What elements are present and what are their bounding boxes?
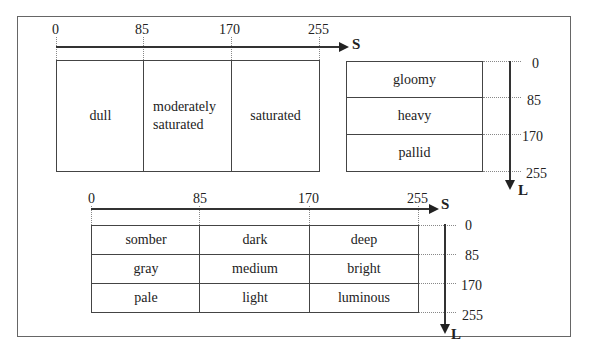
l-axis-label: L [451,327,461,342]
cell-label: saturated [250,107,301,125]
cell-label: bright [347,260,380,278]
l-tick-0: 0 [532,57,539,71]
cell-label: moderately saturated [153,98,216,134]
s-tick-255: 255 [308,23,329,37]
cell-label: medium [232,260,278,278]
cell-label: pale [134,289,157,307]
arrow-right-icon [339,42,349,52]
l-tick-0: 0 [465,219,472,233]
cell-pallid: pallid [346,134,483,172]
s-tick-0: 0 [88,192,95,206]
s-tick-0: 0 [52,23,59,37]
cell-luminous: luminous [309,283,419,313]
cell-label: dark [243,231,268,249]
s-axis-label: S [441,197,449,212]
cell-pale: pale [91,283,201,313]
tick-guide [56,37,57,60]
cell-gloomy: gloomy [346,61,483,98]
tick-guide [419,283,456,284]
cell-label: light [242,289,268,307]
cell-label: heavy [398,107,431,125]
cell-label-line: moderately [153,99,216,114]
s-axis-label: S [352,37,360,52]
tick-guide [419,254,456,255]
cell-somber: somber [91,225,201,255]
tick-guide [483,134,521,135]
l-tick-255: 255 [462,309,483,323]
cell-label: luminous [338,289,390,307]
l-axis-label: L [518,183,528,198]
cell-label: somber [125,231,166,249]
cell-label: pallid [399,144,431,162]
l-axis-line [444,224,446,326]
cell-deep: deep [309,225,419,255]
tick-guide [231,37,232,60]
arrow-down-icon [440,324,450,334]
l-tick-255: 255 [526,167,547,181]
cell-gray: gray [91,254,201,284]
cell-saturated: saturated [231,60,320,172]
tick-guide [483,61,521,62]
tick-guide [143,37,144,60]
cell-dark: dark [199,225,311,255]
tick-guide [483,97,521,98]
l-axis-line [509,61,511,181]
cell-moderately-saturated: moderately saturated [143,60,233,172]
cell-heavy: heavy [346,97,483,135]
arrow-down-icon [505,180,515,190]
s-axis-line [56,46,340,48]
tick-guide [419,225,456,226]
s-axis-line [91,208,430,210]
s-tick-170: 170 [298,192,319,206]
cell-label: gray [134,260,159,278]
cell-medium: medium [199,254,311,284]
cell-label: deep [351,231,377,249]
cell-label: gloomy [393,71,436,89]
s-tick-85: 85 [193,192,207,206]
tick-guide [319,37,320,60]
cell-dull: dull [56,60,145,172]
cell-label: dull [90,107,112,125]
tick-guide [419,312,456,313]
l-tick-170: 170 [461,279,482,293]
arrow-right-icon [429,204,439,214]
l-tick-170: 170 [522,130,543,144]
s-tick-170: 170 [219,23,240,37]
s-tick-255: 255 [407,192,428,206]
cell-bright: bright [309,254,419,284]
l-tick-85: 85 [527,94,541,108]
l-tick-85: 85 [465,249,479,263]
cell-light: light [199,283,311,313]
cell-label-line: saturated [153,117,204,132]
tick-guide [483,171,521,172]
s-tick-85: 85 [135,23,149,37]
